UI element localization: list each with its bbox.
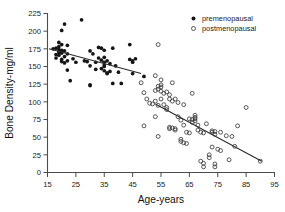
x-tick-label: 15 bbox=[43, 180, 51, 189]
data-point-premenopausal bbox=[91, 52, 95, 56]
legend-label-postmenopausal: postmenopausal bbox=[202, 24, 257, 33]
data-point-premenopausal bbox=[66, 68, 70, 72]
data-point-postmenopausal bbox=[207, 156, 211, 160]
data-point-premenopausal bbox=[102, 48, 106, 52]
data-point-postmenopausal bbox=[142, 91, 146, 95]
data-point-premenopausal bbox=[88, 64, 92, 68]
data-point-postmenopausal bbox=[153, 115, 157, 119]
data-point-postmenopausal bbox=[159, 78, 163, 82]
x-tick-label: 35 bbox=[100, 180, 108, 189]
data-point-premenopausal bbox=[74, 60, 78, 64]
data-point-premenopausal bbox=[63, 22, 67, 26]
data-point-premenopausal bbox=[80, 18, 84, 22]
data-point-premenopausal bbox=[66, 59, 70, 63]
data-point-postmenopausal bbox=[153, 99, 157, 103]
data-point-premenopausal bbox=[66, 43, 70, 47]
data-point-premenopausal bbox=[131, 72, 135, 76]
data-point-premenopausal bbox=[102, 65, 106, 69]
data-point-premenopausal bbox=[54, 56, 58, 60]
y-tick-label: 0 bbox=[37, 168, 41, 177]
data-point-postmenopausal bbox=[219, 130, 223, 134]
data-point-premenopausal bbox=[63, 55, 67, 59]
y-tick-label: 25 bbox=[33, 151, 41, 160]
data-point-postmenopausal bbox=[145, 97, 149, 101]
data-point-postmenopausal bbox=[139, 81, 143, 85]
x-tick-label: 75 bbox=[214, 180, 222, 189]
data-point-premenopausal bbox=[60, 29, 64, 33]
x-tick-label: 95 bbox=[270, 180, 278, 189]
data-point-premenopausal bbox=[102, 55, 106, 59]
x-tick-label: 45 bbox=[128, 180, 136, 189]
y-tick-label: 150 bbox=[28, 62, 41, 71]
data-point-postmenopausal bbox=[182, 123, 186, 127]
data-point-postmenopausal bbox=[176, 101, 180, 105]
data-point-postmenopausal bbox=[156, 43, 160, 47]
data-point-premenopausal bbox=[111, 82, 115, 86]
data-point-premenopausal bbox=[88, 49, 92, 53]
data-point-postmenopausal bbox=[142, 124, 146, 128]
data-point-postmenopausal bbox=[244, 106, 248, 110]
data-point-premenopausal bbox=[119, 82, 123, 86]
data-point-premenopausal bbox=[94, 67, 98, 71]
data-point-premenopausal bbox=[111, 46, 115, 50]
data-point-premenopausal bbox=[131, 60, 135, 64]
legend: premenopausal postmenopausal bbox=[192, 14, 257, 33]
legend-marker-premenopausal-icon bbox=[192, 17, 196, 21]
data-point-premenopausal bbox=[71, 57, 75, 61]
data-point-premenopausal bbox=[68, 79, 72, 83]
axes-group bbox=[47, 13, 275, 173]
series-premenopausal-points bbox=[51, 18, 145, 87]
y-tick-label: 100 bbox=[28, 98, 41, 107]
x-axis-ticks: 152535455565758595 bbox=[43, 173, 278, 189]
x-tick-label: 65 bbox=[185, 180, 193, 189]
data-point-postmenopausal bbox=[170, 81, 174, 85]
data-point-postmenopausal bbox=[159, 97, 163, 101]
data-point-premenopausal bbox=[134, 57, 138, 61]
data-point-premenopausal bbox=[142, 75, 146, 79]
y-tick-label: 175 bbox=[28, 45, 41, 54]
legend-label-premenopausal: premenopausal bbox=[202, 14, 253, 23]
y-tick-label: 50 bbox=[33, 133, 41, 142]
data-point-postmenopausal bbox=[204, 122, 208, 126]
regression-lines-group bbox=[49, 49, 262, 161]
data-point-postmenopausal bbox=[224, 134, 228, 138]
x-tick-label: 55 bbox=[157, 180, 165, 189]
data-point-postmenopausal bbox=[190, 91, 194, 95]
y-tick-label: 75 bbox=[33, 115, 41, 124]
data-point-premenopausal bbox=[117, 70, 121, 74]
legend-marker-postmenopausal-icon bbox=[192, 27, 196, 31]
data-point-premenopausal bbox=[105, 59, 109, 63]
data-point-postmenopausal bbox=[153, 74, 157, 78]
data-point-postmenopausal bbox=[173, 97, 177, 101]
y-tick-label: 125 bbox=[28, 80, 41, 89]
y-axis-ticks: 0255075100125150175200225 bbox=[28, 9, 47, 177]
data-point-postmenopausal bbox=[182, 103, 186, 107]
data-point-postmenopausal bbox=[230, 135, 234, 139]
y-tick-label: 225 bbox=[28, 9, 41, 18]
scatter-plot-figure: 0255075100125150175200225 15253545556575… bbox=[0, 0, 285, 212]
data-point-postmenopausal bbox=[227, 158, 231, 162]
data-point-premenopausal bbox=[128, 43, 132, 47]
data-point-premenopausal bbox=[108, 70, 112, 74]
data-point-postmenopausal bbox=[236, 124, 240, 128]
x-axis-title: Age-years bbox=[138, 194, 184, 205]
data-point-postmenopausal bbox=[213, 165, 217, 169]
y-axis-title: Bone Density-mg/ml bbox=[4, 47, 15, 139]
data-point-premenopausal bbox=[60, 43, 64, 47]
data-point-postmenopausal bbox=[168, 93, 172, 97]
data-point-premenopausal bbox=[85, 60, 89, 64]
data-point-premenopausal bbox=[88, 84, 92, 88]
x-tick-label: 85 bbox=[242, 180, 250, 189]
x-tick-label: 25 bbox=[72, 180, 80, 189]
data-point-postmenopausal bbox=[156, 135, 160, 139]
data-point-postmenopausal bbox=[210, 145, 214, 149]
y-tick-label: 200 bbox=[28, 27, 41, 36]
plot-canvas: 0255075100125150175200225 15253545556575… bbox=[0, 0, 285, 212]
